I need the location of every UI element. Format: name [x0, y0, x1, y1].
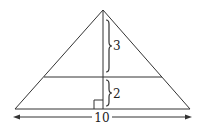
label-base: 10	[94, 111, 109, 125]
brace-upper-icon	[106, 20, 112, 72]
triangle-diagram: 3 2 10	[0, 0, 200, 130]
arrowhead-right-icon	[185, 115, 192, 120]
arrowhead-left-icon	[13, 115, 20, 120]
right-angle-marker	[94, 100, 103, 109]
brace-lower-icon	[106, 80, 112, 106]
label-upper-height: 3	[113, 39, 121, 53]
label-lower-height: 2	[113, 87, 121, 101]
